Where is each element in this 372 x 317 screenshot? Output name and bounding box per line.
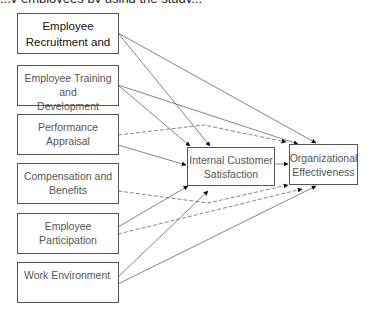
edge-training-ics	[118, 85, 190, 146]
edge-training-oe	[118, 85, 298, 144]
box-internal-customer-satisfaction: Internal Customer Satisfaction	[187, 147, 275, 186]
box-label-line1: Employee Training and	[18, 71, 118, 99]
box-label-line1: Compensation and	[24, 169, 112, 183]
box-label-line1: Internal Customer	[189, 153, 272, 167]
box-organizational-effectiveness: Organizational Effectiveness	[289, 144, 358, 185]
edge-environment-oe	[118, 186, 316, 284]
box-label-line2: Development	[37, 99, 99, 113]
edge-recruitment-oe	[118, 33, 316, 143]
box-label-line2: Benefits	[49, 183, 87, 197]
box-performance-appraisal: Performance Appraisal	[17, 114, 119, 155]
edge-environment-ics	[118, 191, 208, 277]
box-label: Performance Appraisal	[18, 120, 118, 148]
box-employee-participation: Employee Participation	[17, 213, 119, 254]
box-label-line1: Employee	[42, 18, 93, 34]
edge-appraisal-oe	[118, 125, 286, 142]
box-label-line2: Recruitment and	[26, 34, 110, 50]
box-label: Work Environment	[24, 268, 110, 282]
edge-participation-oe	[118, 189, 302, 234]
box-employee-recruitment: Employee Recruitment and	[17, 13, 119, 54]
edge-participation-ics	[118, 186, 188, 227]
edge-appraisal-ics	[118, 145, 186, 165]
box-employee-training: Employee Training and Development	[17, 65, 119, 106]
box-label-line2: Effectiveness	[292, 165, 354, 179]
box-label-line1: Organizational	[290, 151, 358, 165]
box-label: Employee Participation	[18, 219, 118, 247]
box-compensation-benefits: Compensation and Benefits	[17, 163, 119, 204]
box-work-environment: Work Environment	[17, 262, 119, 303]
box-label-line2: Satisfaction	[204, 167, 258, 181]
edge-compensation-oe	[118, 185, 288, 203]
